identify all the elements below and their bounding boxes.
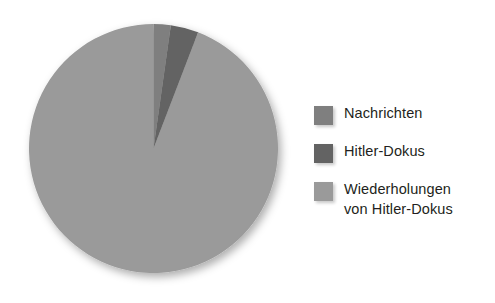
legend-swatch-hitler-dokus <box>314 144 333 163</box>
legend-item-nachrichten: Nachrichten <box>314 104 492 125</box>
pie-slices-group <box>29 24 278 273</box>
legend-item-wiederholungen: Wiederholungen von Hitler-Dokus <box>314 180 492 219</box>
legend-item-hitler-dokus: Hitler-Dokus <box>314 142 492 163</box>
legend-swatch-nachrichten <box>314 106 333 125</box>
pie-chart-page: Nachrichten Hitler-Dokus Wiederholungen … <box>0 0 495 303</box>
legend-label-wiederholungen: Wiederholungen von Hitler-Dokus <box>344 180 453 219</box>
pie-chart-svg <box>29 24 278 273</box>
legend-label-nachrichten: Nachrichten <box>344 104 422 124</box>
legend-label-hitler-dokus: Hitler-Dokus <box>344 142 425 162</box>
chart-legend: Nachrichten Hitler-Dokus Wiederholungen … <box>314 104 492 219</box>
legend-swatch-wiederholungen <box>314 182 333 201</box>
pie-chart-graphic <box>29 24 278 273</box>
